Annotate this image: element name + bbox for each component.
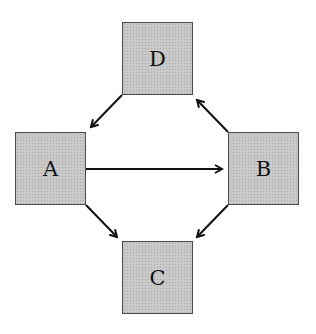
edge-b-to-d (197, 100, 228, 132)
edge-d-to-a (91, 95, 122, 127)
edge-b-to-c (197, 205, 228, 237)
edge-a-to-c (86, 205, 117, 237)
edges-layer (0, 0, 316, 334)
